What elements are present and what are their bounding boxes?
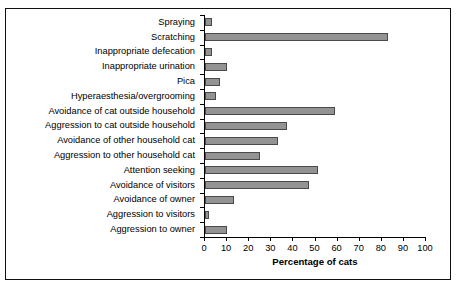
x-axis-tick (270, 237, 271, 241)
category-label: Aggression to other household cat (6, 148, 200, 163)
x-axis-tick (204, 237, 205, 241)
x-axis-tick-label: 100 (417, 243, 433, 253)
category-label: Avoidance of cat outside household (6, 104, 200, 119)
y-axis-tick (200, 163, 204, 164)
bar (205, 33, 388, 41)
bar (205, 122, 287, 130)
bar-row (205, 148, 451, 163)
y-axis-tick (200, 45, 204, 46)
x-axis-tick-label: 40 (287, 243, 297, 253)
bar-row (205, 178, 451, 193)
category-label: Avoidance of other household cat (6, 133, 200, 148)
x-axis-tick-label: 60 (331, 243, 341, 253)
x-axis-tick-label: 30 (265, 243, 275, 253)
category-label: Aggression to visitors (6, 207, 200, 222)
bar (205, 196, 234, 204)
category-label: Hyperaesthesia/overgrooming (6, 89, 200, 104)
x-axis-tick (381, 237, 382, 241)
category-label: Scratching (6, 30, 200, 45)
x-axis-tick (315, 237, 316, 241)
category-label: Avoidance of owner (6, 193, 200, 208)
x-axis-tick-label: 90 (398, 243, 408, 253)
bar (205, 92, 216, 100)
x-axis-tick-label: 20 (243, 243, 253, 253)
x-axis-tick (403, 237, 404, 241)
bar-row (205, 74, 451, 89)
chart-plot-area: SprayingScratchingInappropriate defecati… (6, 9, 452, 281)
bar-row (205, 30, 451, 45)
bar-row (205, 45, 451, 60)
bar (205, 211, 209, 219)
bar-row (205, 59, 451, 74)
bar (205, 166, 318, 174)
x-axis-tick (359, 237, 360, 241)
bar-series (205, 15, 451, 237)
category-label: Inappropriate urination (6, 59, 200, 74)
x-axis-tick-label: 0 (201, 243, 206, 253)
y-axis-tick (200, 133, 204, 134)
x-axis-tick-label: 70 (354, 243, 364, 253)
bar (205, 63, 227, 71)
bar-row (205, 104, 451, 119)
bar-row (205, 207, 451, 222)
y-axis-tick (200, 30, 204, 31)
category-label: Inappropriate defecation (6, 45, 200, 60)
y-axis-tick (200, 89, 204, 90)
x-axis-tick-label: 80 (376, 243, 386, 253)
bar (205, 137, 278, 145)
category-label: Pica (6, 74, 200, 89)
figure-frame: SprayingScratchingInappropriate defecati… (5, 8, 451, 280)
x-axis-tick-label: 50 (309, 243, 319, 253)
category-label: Avoidance of visitors (6, 178, 200, 193)
bar-row (205, 222, 451, 237)
y-axis-tick (200, 104, 204, 105)
x-axis-tick (248, 237, 249, 241)
bar-row (205, 119, 451, 134)
bar-row (205, 15, 451, 30)
x-axis-tick-label: 10 (221, 243, 231, 253)
bar (205, 78, 220, 86)
y-axis-tick (200, 148, 204, 149)
y-axis-tick (200, 119, 204, 120)
x-axis-title: Percentage of cats (204, 256, 426, 267)
y-axis-tick (200, 193, 204, 194)
x-axis-tick (337, 237, 338, 241)
x-axis-tick (425, 237, 426, 241)
bar (205, 181, 309, 189)
x-axis-tick (226, 237, 227, 241)
bar (205, 48, 212, 56)
y-axis-tick (200, 59, 204, 60)
y-axis-tick (200, 178, 204, 179)
category-axis-labels: SprayingScratchingInappropriate defecati… (6, 15, 200, 237)
y-axis-tick (200, 207, 204, 208)
y-axis-tick (200, 74, 204, 75)
bar (205, 107, 335, 115)
bar-row (205, 163, 451, 178)
category-label: Aggression to cat outside household (6, 119, 200, 134)
category-label: Attention seeking (6, 163, 200, 178)
bar-row (205, 133, 451, 148)
bar (205, 152, 260, 160)
category-label: Aggression to owner (6, 222, 200, 237)
bar-row (205, 89, 451, 104)
y-axis-tick (200, 222, 204, 223)
x-axis-tick (292, 237, 293, 241)
x-axis-line: 0102030405060708090100 (204, 237, 426, 238)
bar (205, 226, 227, 234)
category-label: Spraying (6, 15, 200, 30)
bar-row (205, 193, 451, 208)
y-axis-tick (200, 15, 204, 16)
bar (205, 18, 212, 26)
